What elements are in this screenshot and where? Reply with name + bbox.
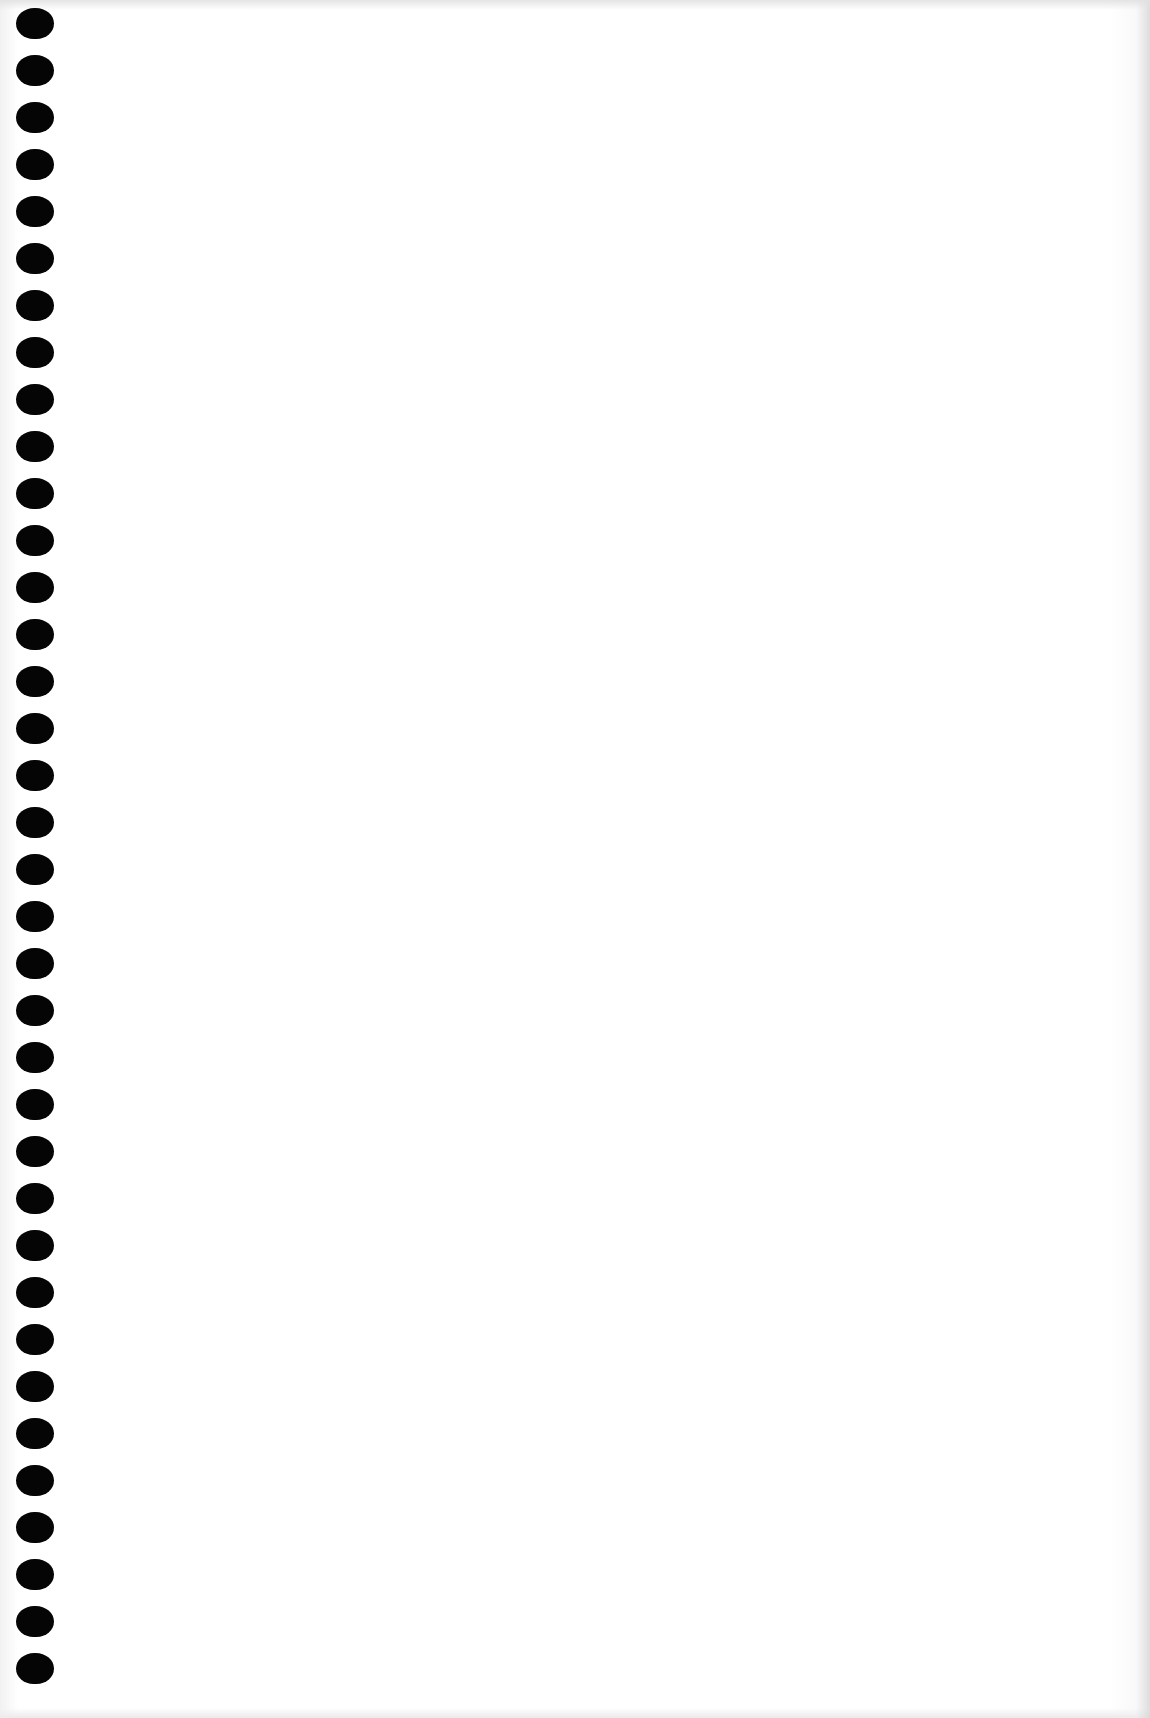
- binding-hole: [16, 1042, 54, 1073]
- notebook-page: [0, 0, 1150, 1718]
- binding-hole: [16, 1371, 54, 1402]
- binding-hole: [16, 1465, 54, 1496]
- binding-hole: [16, 572, 54, 603]
- binding-hole: [16, 478, 54, 509]
- binding-hole: [16, 1559, 54, 1590]
- binding-hole: [16, 1653, 54, 1684]
- blank-writing-area: [70, 0, 1150, 1718]
- binding-hole: [16, 1418, 54, 1449]
- binding-hole: [16, 8, 54, 39]
- binding-hole: [16, 1512, 54, 1543]
- binding-hole: [16, 1183, 54, 1214]
- binding-hole: [16, 807, 54, 838]
- binding-hole: [16, 1277, 54, 1308]
- binding-hole: [16, 901, 54, 932]
- binding-hole: [16, 1230, 54, 1261]
- binding-hole: [16, 525, 54, 556]
- binding-hole: [16, 760, 54, 791]
- binding-hole: [16, 713, 54, 744]
- binding-hole: [16, 337, 54, 368]
- binding-hole: [16, 149, 54, 180]
- spiral-binding-holes: [0, 0, 70, 1718]
- binding-hole: [16, 619, 54, 650]
- binding-hole: [16, 854, 54, 885]
- binding-hole: [16, 55, 54, 86]
- binding-hole: [16, 431, 54, 462]
- binding-hole: [16, 1136, 54, 1167]
- binding-hole: [16, 290, 54, 321]
- binding-hole: [16, 384, 54, 415]
- binding-hole: [16, 948, 54, 979]
- binding-hole: [16, 196, 54, 227]
- binding-hole: [16, 102, 54, 133]
- binding-hole: [16, 1324, 54, 1355]
- binding-hole: [16, 1606, 54, 1637]
- binding-hole: [16, 1089, 54, 1120]
- binding-hole: [16, 666, 54, 697]
- binding-hole: [16, 995, 54, 1026]
- binding-hole: [16, 243, 54, 274]
